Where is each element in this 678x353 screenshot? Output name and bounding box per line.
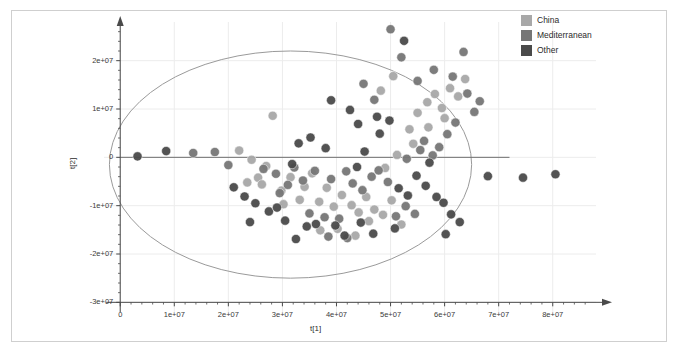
- data-point[interactable]: [360, 147, 369, 156]
- data-point[interactable]: [251, 199, 260, 208]
- data-point[interactable]: [443, 130, 452, 139]
- data-point[interactable]: [390, 224, 399, 233]
- data-point[interactable]: [162, 146, 171, 155]
- data-point[interactable]: [394, 184, 403, 193]
- data-point[interactable]: [439, 198, 448, 207]
- data-point[interactable]: [409, 139, 418, 148]
- data-point[interactable]: [518, 173, 527, 182]
- data-point[interactable]: [298, 176, 307, 185]
- data-point[interactable]: [367, 172, 376, 181]
- data-point[interactable]: [483, 172, 492, 181]
- data-point[interactable]: [454, 92, 463, 101]
- data-point[interactable]: [425, 158, 434, 167]
- data-point[interactable]: [424, 123, 433, 132]
- data-point[interactable]: [247, 155, 256, 164]
- data-point[interactable]: [430, 89, 439, 98]
- data-point[interactable]: [342, 167, 351, 176]
- data-point[interactable]: [440, 114, 449, 123]
- data-point[interactable]: [383, 177, 392, 186]
- data-point[interactable]: [337, 190, 346, 199]
- data-point[interactable]: [374, 166, 383, 175]
- data-point[interactable]: [281, 216, 290, 225]
- data-point[interactable]: [435, 143, 444, 152]
- data-point[interactable]: [410, 209, 419, 218]
- data-point[interactable]: [423, 98, 432, 107]
- data-point[interactable]: [264, 207, 273, 216]
- legend-item-china[interactable]: China: [521, 13, 641, 27]
- data-point[interactable]: [447, 210, 456, 219]
- data-point[interactable]: [310, 166, 319, 175]
- data-point[interactable]: [351, 231, 360, 240]
- data-point[interactable]: [370, 95, 379, 104]
- data-point[interactable]: [437, 103, 446, 112]
- data-point[interactable]: [275, 189, 284, 198]
- data-point[interactable]: [455, 218, 464, 227]
- data-point[interactable]: [475, 97, 484, 106]
- data-point[interactable]: [358, 186, 367, 195]
- data-point[interactable]: [345, 105, 354, 114]
- data-point[interactable]: [326, 174, 335, 183]
- data-point[interactable]: [412, 171, 421, 180]
- data-point[interactable]: [302, 222, 311, 231]
- data-point[interactable]: [352, 162, 361, 171]
- data-point[interactable]: [372, 112, 381, 121]
- legend-item-other[interactable]: Other: [521, 43, 641, 57]
- data-point[interactable]: [459, 47, 468, 56]
- data-point[interactable]: [448, 72, 457, 81]
- data-point[interactable]: [315, 197, 324, 206]
- data-point[interactable]: [399, 36, 408, 45]
- data-point[interactable]: [403, 191, 412, 200]
- data-point[interactable]: [257, 180, 266, 189]
- data-point[interactable]: [359, 79, 368, 88]
- data-point[interactable]: [413, 76, 422, 85]
- data-point[interactable]: [311, 219, 320, 228]
- data-point[interactable]: [389, 72, 398, 81]
- data-point[interactable]: [385, 116, 394, 125]
- data-point[interactable]: [354, 208, 363, 217]
- data-point[interactable]: [321, 144, 330, 153]
- data-point[interactable]: [376, 86, 385, 95]
- legend-item-mediterranean[interactable]: Mediterranean: [521, 28, 641, 42]
- data-point[interactable]: [240, 192, 249, 201]
- data-point[interactable]: [326, 96, 335, 105]
- data-point[interactable]: [340, 231, 349, 240]
- data-point[interactable]: [392, 150, 401, 159]
- data-point[interactable]: [463, 89, 472, 98]
- data-point[interactable]: [288, 160, 297, 169]
- data-point[interactable]: [324, 232, 333, 241]
- data-point[interactable]: [229, 183, 238, 192]
- data-point[interactable]: [445, 84, 454, 93]
- data-point[interactable]: [272, 203, 281, 212]
- data-point[interactable]: [322, 183, 331, 192]
- data-point[interactable]: [416, 145, 425, 154]
- data-point[interactable]: [397, 53, 406, 62]
- data-point[interactable]: [419, 136, 428, 145]
- data-point[interactable]: [401, 202, 410, 211]
- data-point[interactable]: [305, 209, 314, 218]
- data-point[interactable]: [413, 108, 422, 117]
- data-point[interactable]: [551, 170, 560, 179]
- data-point[interactable]: [421, 181, 430, 190]
- data-point[interactable]: [320, 213, 329, 222]
- data-point[interactable]: [283, 180, 292, 189]
- data-point[interactable]: [470, 107, 479, 116]
- data-point[interactable]: [375, 129, 384, 138]
- data-point[interactable]: [387, 196, 396, 205]
- data-point[interactable]: [405, 125, 414, 134]
- data-point[interactable]: [331, 221, 340, 230]
- data-point[interactable]: [354, 119, 363, 128]
- data-point[interactable]: [133, 152, 142, 161]
- data-point[interactable]: [451, 118, 460, 127]
- data-point[interactable]: [391, 212, 400, 221]
- data-point[interactable]: [364, 217, 373, 226]
- data-point[interactable]: [291, 234, 300, 243]
- data-point[interactable]: [210, 147, 219, 156]
- data-point[interactable]: [329, 202, 338, 211]
- data-point[interactable]: [386, 25, 395, 34]
- data-point[interactable]: [268, 111, 277, 120]
- data-point[interactable]: [306, 133, 315, 142]
- data-point[interactable]: [245, 218, 254, 227]
- data-point[interactable]: [369, 229, 378, 238]
- data-point[interactable]: [347, 201, 356, 210]
- data-point[interactable]: [378, 210, 387, 219]
